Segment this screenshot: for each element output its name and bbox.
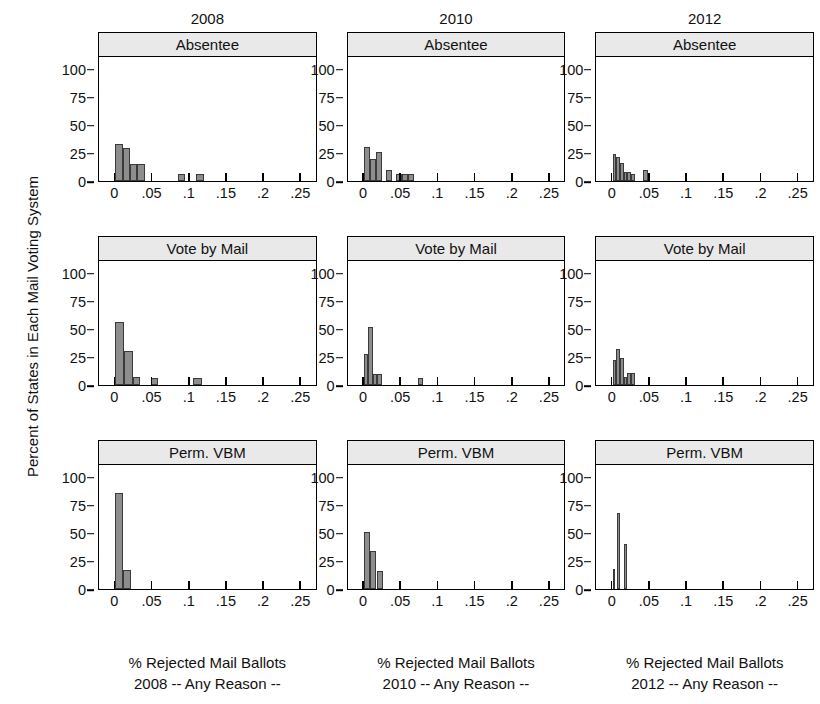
x-tick-label: .15 <box>464 390 484 405</box>
x-tick-mark <box>188 173 190 182</box>
x-tick-mark <box>399 581 401 590</box>
y-tick-mark <box>87 561 94 563</box>
x-tick-label: .2 <box>506 594 518 609</box>
x-caption-line2: 2010 -- Any Reason -- <box>347 673 566 694</box>
histogram-bar <box>123 148 130 181</box>
histogram-bar <box>115 322 124 385</box>
y-tick-mark <box>87 385 94 387</box>
y-tick-label: 0 <box>327 379 335 394</box>
x-tick-label: .25 <box>290 186 310 201</box>
x-tick-label: .2 <box>754 186 766 201</box>
y-tick-mark <box>336 273 343 275</box>
y-tick-mark <box>336 125 343 127</box>
x-tick-mark <box>225 173 227 182</box>
histogram-bar <box>124 351 133 385</box>
plot-area <box>99 57 316 181</box>
y-tick-mark <box>87 153 94 155</box>
x-tick-label: .25 <box>788 390 808 405</box>
y-tick-mark <box>584 589 591 591</box>
histogram-bar <box>130 164 137 181</box>
x-tick-mark <box>114 377 116 386</box>
x-tick-label: 0 <box>608 186 616 201</box>
panel-box: Absentee <box>347 32 566 182</box>
x-tick-mark <box>611 377 613 386</box>
y-tick-mark <box>336 505 343 507</box>
x-tick-mark <box>760 581 762 590</box>
x-tick-label: 0 <box>359 594 367 609</box>
x-tick-label: .1 <box>431 594 443 609</box>
y-tick-label: 25 <box>70 147 86 162</box>
y-tick-mark <box>336 181 343 183</box>
x-axis-ticks: 0.05.1.15.2.25 <box>98 182 317 212</box>
x-tick-mark <box>225 581 227 590</box>
column-title-2008: 2008 <box>98 8 317 30</box>
x-axis-caption-2008: % Rejected Mail Ballots2008 -- Any Reaso… <box>98 652 317 694</box>
histogram-bar <box>178 174 185 181</box>
y-tick-mark <box>336 385 343 387</box>
y-tick-label: 50 <box>319 527 335 542</box>
x-tick-label: .25 <box>539 186 559 201</box>
y-tick-label: 75 <box>70 498 86 513</box>
panel-box: Perm. VBM <box>595 440 814 590</box>
plot-area <box>348 261 565 385</box>
x-tick-label: 0 <box>110 594 118 609</box>
panel-box: Vote by Mail <box>347 236 566 386</box>
x-tick-mark <box>188 377 190 386</box>
x-tick-label: 0 <box>608 390 616 405</box>
y-tick-mark <box>87 329 94 331</box>
x-axis-ticks: 0.05.1.15.2.25 <box>347 590 566 620</box>
y-tick-label: 0 <box>327 583 335 598</box>
x-tick-mark <box>685 377 687 386</box>
x-tick-mark <box>299 581 301 590</box>
y-tick-mark <box>87 97 94 99</box>
panel-2010-vote-by-mail: 0255075100Vote by Mail0.05.1.15.2.25 <box>347 212 566 416</box>
x-caption-line2: 2012 -- Any Reason -- <box>595 673 814 694</box>
x-tick-mark <box>797 377 799 386</box>
y-tick-label: 25 <box>567 555 583 570</box>
y-tick-label: 25 <box>567 351 583 366</box>
panel-strip-label: Absentee <box>99 33 316 57</box>
x-tick-label: 0 <box>110 186 118 201</box>
histogram-bar <box>631 174 635 181</box>
x-tick-mark <box>151 581 153 590</box>
y-tick-mark <box>584 505 591 507</box>
y-tick-mark <box>584 125 591 127</box>
y-tick-mark <box>87 181 94 183</box>
x-tick-mark <box>648 377 650 386</box>
histogram-bar <box>115 493 123 589</box>
x-tick-label: 0 <box>608 594 616 609</box>
x-tick-label: .05 <box>390 186 410 201</box>
x-tick-mark <box>797 173 799 182</box>
x-tick-mark <box>151 377 153 386</box>
x-axis-ticks: 0.05.1.15.2.25 <box>98 590 317 620</box>
x-tick-mark <box>299 173 301 182</box>
x-tick-label: .2 <box>754 390 766 405</box>
y-tick-mark <box>584 301 591 303</box>
x-tick-mark <box>114 173 116 182</box>
x-tick-label: .15 <box>713 390 733 405</box>
x-tick-label: .05 <box>141 390 161 405</box>
y-tick-label: 0 <box>78 379 86 394</box>
y-tick-mark <box>584 385 591 387</box>
y-tick-label: 50 <box>319 119 335 134</box>
y-tick-label: 50 <box>70 119 86 134</box>
y-tick-label: 0 <box>575 583 583 598</box>
y-tick-mark <box>87 69 94 71</box>
panel-strip-label: Absentee <box>596 33 813 57</box>
x-tick-mark <box>225 377 227 386</box>
x-tick-label: .1 <box>431 390 443 405</box>
y-tick-mark <box>584 181 591 183</box>
x-axis-caption-2010: % Rejected Mail Ballots2010 -- Any Reaso… <box>347 652 566 694</box>
x-tick-mark <box>511 173 513 182</box>
x-tick-label: .25 <box>539 390 559 405</box>
figure-root: Percent of States in Each Mail Voting Sy… <box>0 0 820 704</box>
x-tick-mark <box>760 377 762 386</box>
histogram-bar <box>377 374 381 385</box>
x-tick-label: .1 <box>680 594 692 609</box>
y-tick-label: 25 <box>319 351 335 366</box>
panel-box: Vote by Mail <box>98 236 317 386</box>
histogram-bar <box>133 377 140 385</box>
plot-area <box>99 465 316 589</box>
x-tick-mark <box>760 173 762 182</box>
panel-2008-absentee: 20080255075100Absentee0.05.1.15.2.25 <box>98 8 317 212</box>
